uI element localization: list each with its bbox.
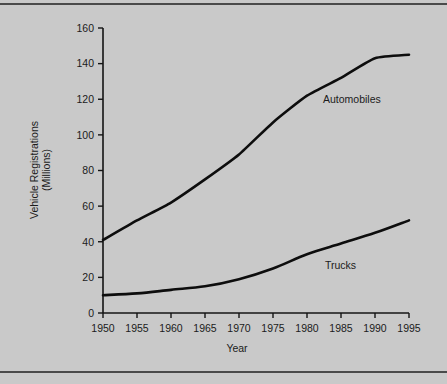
series-line-automobiles — [103, 55, 409, 240]
y-tick-label: 160 — [76, 22, 94, 34]
y-axis-title-line1: Vehicle Registrations — [28, 121, 40, 219]
series-label-automobiles: Automobiles — [323, 93, 381, 105]
y-tick-label: 140 — [76, 57, 94, 69]
chart-figure: 020406080100120140160 195019551960196519… — [0, 0, 447, 384]
x-tick-label: 1970 — [227, 322, 251, 334]
y-tick-label: 80 — [82, 164, 94, 176]
x-tick-label: 1990 — [363, 322, 387, 334]
x-tick-label: 1960 — [159, 322, 183, 334]
y-tick-label: 60 — [82, 200, 94, 212]
x-axis-tick-labels: 1950195519601965197019751980198519901995 — [91, 322, 421, 334]
y-tick-label: 100 — [76, 129, 94, 141]
y-tick-label: 20 — [82, 271, 94, 283]
series-label-trucks: Trucks — [325, 259, 356, 271]
x-tick-label: 1975 — [261, 322, 285, 334]
series-line-trucks — [103, 220, 409, 295]
y-axis-tick-labels: 020406080100120140160 — [76, 22, 94, 319]
x-tick-label: 1950 — [91, 322, 115, 334]
y-tick-label: 40 — [82, 236, 94, 248]
y-axis-title-line2: (Millions) — [40, 149, 52, 191]
y-tick-label: 0 — [88, 307, 94, 319]
x-axis-title: Year — [226, 342, 248, 354]
x-tick-label: 1985 — [329, 322, 353, 334]
x-tick-label: 1995 — [397, 322, 421, 334]
x-tick-label: 1955 — [125, 322, 149, 334]
x-tick-label: 1965 — [193, 322, 217, 334]
line-chart-plot: 020406080100120140160 195019551960196519… — [0, 0, 447, 384]
y-tick-label: 120 — [76, 93, 94, 105]
x-tick-label: 1980 — [295, 322, 319, 334]
